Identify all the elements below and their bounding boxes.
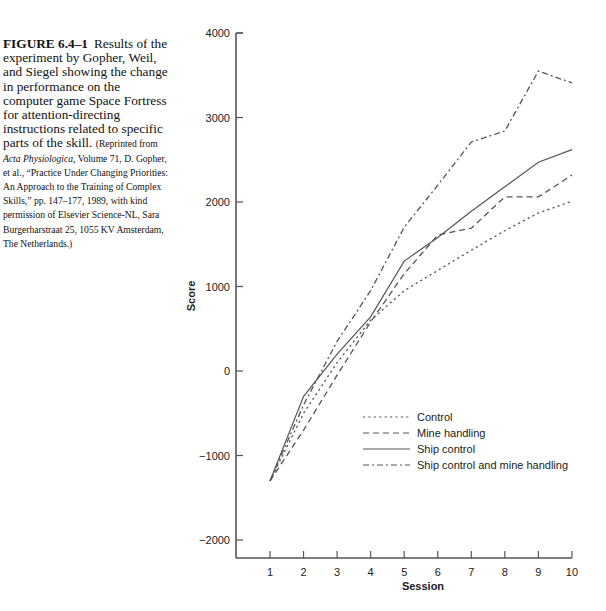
- chart-legend: ControlMine handlingShip controlShip con…: [363, 411, 568, 471]
- y-tick-label: 0: [224, 365, 230, 377]
- legend-label: Mine handling: [417, 427, 486, 439]
- x-tick-label: 1: [267, 566, 273, 578]
- x-tick-label: 4: [368, 566, 374, 578]
- y-tick-label: 1000: [206, 281, 230, 293]
- y-tick-label: 2000: [206, 196, 230, 208]
- x-tick-label: 3: [334, 566, 340, 578]
- legend-label: Ship control and mine handling: [417, 459, 568, 471]
- y-tick-label: −1000: [199, 450, 230, 462]
- y-tick-label: 4000: [206, 27, 230, 39]
- legend-label: Control: [417, 411, 452, 423]
- line-chart: 40003000200010000−1000−200012345678910Se…: [0, 0, 606, 611]
- y-tick-label: 3000: [206, 112, 230, 124]
- x-axis-label: Session: [402, 580, 444, 592]
- legend-label: Ship control: [417, 443, 475, 455]
- x-tick-label: 5: [401, 566, 407, 578]
- y-axis-label: Score: [185, 281, 197, 312]
- chart-axes: 40003000200010000−1000−200012345678910Se…: [185, 27, 578, 592]
- y-tick-label: −2000: [199, 534, 230, 546]
- x-tick-label: 6: [435, 566, 441, 578]
- x-tick-label: 9: [535, 566, 541, 578]
- x-tick-label: 2: [300, 566, 306, 578]
- x-tick-label: 10: [566, 566, 578, 578]
- x-tick-label: 8: [502, 566, 508, 578]
- x-tick-label: 7: [468, 566, 474, 578]
